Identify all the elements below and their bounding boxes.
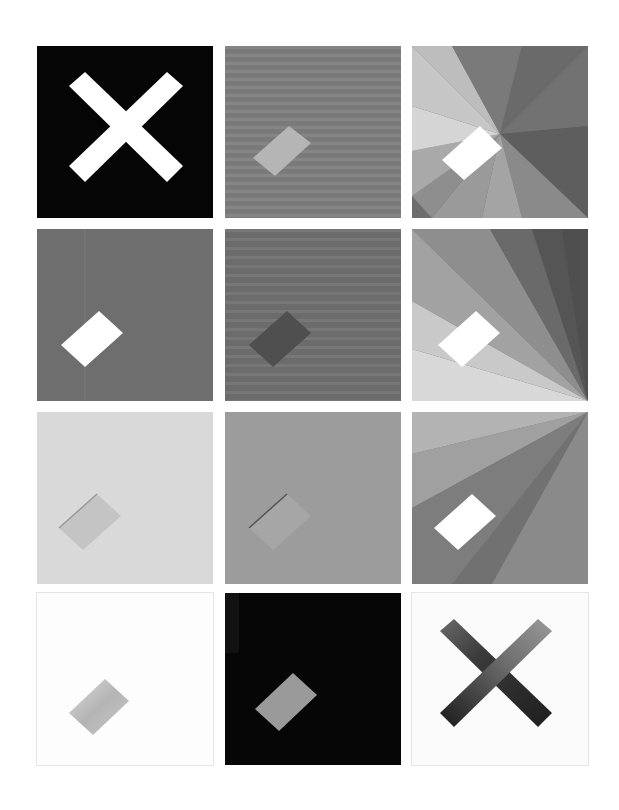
artwork-tile-r4c1 [37, 593, 213, 765]
artwork-tile-r1c2 [225, 46, 401, 218]
artwork-tile-r2c1 [37, 229, 213, 401]
bar-icon [37, 593, 213, 765]
x-icon [412, 593, 588, 765]
artwork-tile-r3c2 [225, 412, 401, 584]
artwork-tile-r4c3 [412, 593, 588, 765]
artwork-tile-r2c2 [225, 229, 401, 401]
x-icon [37, 46, 213, 218]
artwork-tile-r3c1 [37, 412, 213, 584]
artwork-tile-r3c3 [412, 412, 588, 584]
artwork-tile-r1c1 [37, 46, 213, 218]
bar-icon [225, 229, 401, 401]
bar-icon [225, 593, 401, 765]
bar-icon [225, 46, 401, 218]
artwork-tile-r2c3 [412, 229, 588, 401]
artwork-tile-r1c3 [412, 46, 588, 218]
bar-icon [225, 412, 401, 584]
bar-icon [37, 229, 213, 401]
bar-icon [37, 412, 213, 584]
bar-icon [412, 229, 588, 401]
bar-icon [412, 412, 588, 584]
artwork-tile-r4c2 [225, 593, 401, 765]
bar-icon [412, 46, 588, 218]
